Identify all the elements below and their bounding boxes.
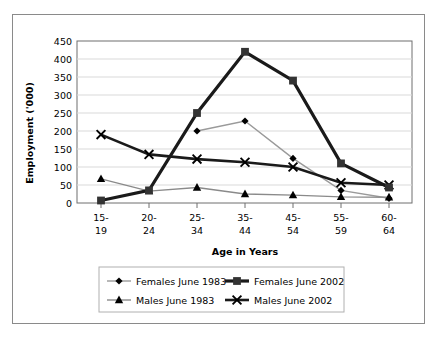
data-point-females2002-45-54 [289, 77, 297, 85]
x-tick-label-35-44-line2: 44 [239, 225, 251, 236]
chart-plot-wrapper: Employment ('000) 450 400 350 300 250 20… [13, 15, 424, 323]
data-point-females2002-55-59 [337, 160, 345, 168]
x-tick-label-60-64-line1: 60- [381, 212, 397, 223]
legend-item-males-june-2002[interactable]: Males June 2002 [225, 295, 332, 306]
x-tick-label-15-19-line2: 19 [95, 225, 107, 236]
data-point-females2002-15-19 [97, 197, 105, 205]
legend-label-females-june-1983: Females June 1983 [136, 276, 226, 287]
y-tick-350: 350 [54, 72, 72, 83]
data-point-females2002-35-44 [241, 48, 249, 56]
y-tick-400: 400 [54, 54, 72, 65]
x-tick-label-55-59-line1: 55- [333, 212, 349, 223]
x-tick-label-55-59-line2: 59 [335, 225, 347, 236]
x-axis-tick-labels: 15- 19 20- 24 25- 34 35- 44 45- 54 55- 5… [93, 212, 397, 236]
x-axis-title: Age in Years [212, 246, 279, 257]
x-tick-label-35-44-line1: 35- [237, 212, 253, 223]
y-tick-50: 50 [60, 180, 72, 191]
legend-label-males-june-1983: Males June 1983 [136, 295, 214, 306]
x-tick-label-20-24-line1: 20- [141, 212, 157, 223]
x-tick-label-45-54-line1: 45- [285, 212, 301, 223]
x-tick-label-20-24-line2: 24 [143, 225, 155, 236]
y-tick-250: 250 [54, 108, 72, 119]
y-axis-tick-labels: 450 400 350 300 250 200 150 100 50 0 [54, 36, 72, 209]
y-axis-title: Employment ('000) [24, 82, 35, 184]
x-axis-ticks [101, 203, 389, 208]
legend-label-males-june-2002: Males June 2002 [254, 295, 332, 306]
employment-by-age-line-chart: Employment ('000) 450 400 350 300 250 20… [13, 15, 424, 323]
y-tick-150: 150 [54, 144, 72, 155]
x-tick-label-60-64-line2: 64 [383, 225, 395, 236]
x-tick-label-25-34-line1: 25- [189, 212, 205, 223]
data-point-females2002-20-24 [145, 187, 153, 195]
y-tick-0: 0 [66, 198, 72, 209]
y-tick-300: 300 [54, 90, 72, 101]
x-tick-label-25-34-line2: 34 [191, 225, 203, 236]
y-tick-450: 450 [54, 36, 72, 47]
legend-label-females-june-2002: Females June 2002 [254, 276, 344, 287]
y-tick-200: 200 [54, 126, 72, 137]
square-marker-icon [233, 277, 241, 285]
data-point-females2002-60-64 [385, 184, 393, 192]
y-tick-100: 100 [54, 162, 72, 173]
x-tick-label-15-19-line1: 15- [93, 212, 109, 223]
chart-figure-frame: Employment ('000) 450 400 350 300 250 20… [12, 14, 425, 324]
x-tick-label-45-54-line2: 54 [287, 225, 299, 236]
chart-legend: Females June 1983 Females June 2002 Male… [99, 267, 344, 312]
data-point-females2002-25-34 [193, 109, 201, 117]
